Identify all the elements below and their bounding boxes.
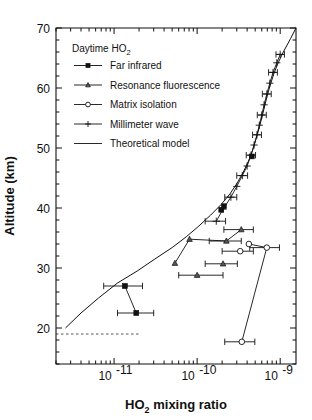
y-tick-label-1: 30: [37, 262, 51, 276]
svg-text:10: 10: [98, 369, 112, 383]
data-point-far-infrared-2: [249, 154, 254, 159]
y-tick-label-2: 40: [37, 202, 51, 216]
legend-label: Millimeter wave: [110, 119, 179, 130]
legend-label: Far infrared: [110, 60, 162, 71]
data-point-matrix-isolation-0: [246, 241, 252, 247]
svg-text:-11: -11: [116, 363, 133, 377]
svg-text:-10: -10: [199, 363, 217, 377]
y-tick-label-0: 20: [37, 322, 51, 336]
y-tick-label-4: 60: [37, 82, 51, 96]
data-point-matrix-isolation-2: [237, 248, 243, 254]
data-point-matrix-isolation-1: [264, 245, 270, 251]
legend-label: Resonance fluorescence: [110, 80, 221, 91]
data-point-far-infrared-1: [134, 311, 139, 316]
x-axis-label: HO2 mixing ratio: [125, 397, 227, 415]
ho2-mixing-ratio-altitude-chart: 10-1110-1010-9 203040506070 Daytime HO2F…: [0, 0, 312, 420]
svg-text:10: 10: [181, 369, 195, 383]
y-tick-label-3: 50: [37, 142, 51, 156]
data-point-far-infrared-0: [122, 284, 127, 289]
legend-label: Matrix isolation: [110, 99, 177, 110]
legend-label: Theoretical model: [110, 138, 189, 149]
y-tick-label-5: 70: [37, 22, 51, 36]
figure-container: 10-1110-1010-9 203040506070 Daytime HO2F…: [0, 0, 312, 420]
y-axis-label: Altitude (km): [2, 156, 17, 235]
svg-text:10: 10: [265, 369, 279, 383]
data-point-matrix-isolation-3: [239, 339, 245, 345]
svg-text:-9: -9: [282, 363, 293, 377]
